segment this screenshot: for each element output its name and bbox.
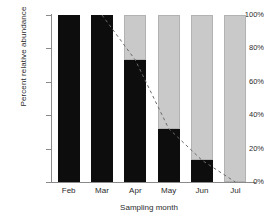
y-axis-label: Percent relative abundance (19, 0, 28, 132)
bar-segment-black[interactable] (191, 160, 213, 182)
y-axis-tick-mark (46, 15, 51, 16)
x-axis-label: Sampling month (42, 203, 256, 212)
x-axis-tick-label: Jul (215, 186, 255, 195)
bar-group[interactable] (224, 15, 246, 182)
bar-segment-black[interactable] (158, 129, 180, 182)
y-axis-tick-mark (46, 182, 51, 183)
bar-group[interactable] (91, 15, 113, 182)
bar-segment-gray[interactable] (124, 15, 146, 60)
bar-group[interactable] (58, 15, 80, 182)
bar-group[interactable] (124, 15, 146, 182)
bar-segment-gray[interactable] (191, 15, 213, 160)
y-axis-tick-mark (46, 48, 51, 49)
chart-figure: Percent relative abundance 0%20%40%60%80… (0, 0, 264, 219)
plot-area (52, 15, 252, 182)
bar-group[interactable] (191, 15, 213, 182)
bar-segment-black[interactable] (58, 15, 80, 182)
bar-segment-gray[interactable] (158, 15, 180, 129)
bar-segment-gray[interactable] (224, 15, 246, 182)
bar-segment-black[interactable] (91, 15, 113, 182)
bar-group[interactable] (158, 15, 180, 182)
y-axis-tick-mark (46, 115, 51, 116)
y-axis-tick-mark (46, 82, 51, 83)
y-axis-tick-mark (46, 149, 51, 150)
bar-segment-black[interactable] (124, 60, 146, 182)
